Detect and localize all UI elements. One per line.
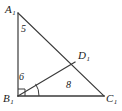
- vertex-label-a1: A1: [5, 4, 16, 19]
- vertex-subscript-b: 1: [10, 98, 14, 106]
- vertex-subscript-c: 1: [114, 98, 118, 106]
- segment-a1-c1: [18, 13, 104, 96]
- length-label-b1d1: 6: [19, 72, 24, 82]
- vertex-subscript-a: 1: [12, 9, 16, 17]
- vertex-letter-b: B: [3, 92, 10, 104]
- vertex-subscript-d: 1: [86, 55, 90, 63]
- length-label-a1b1: 5: [21, 24, 26, 34]
- length-label-base-8: 8: [66, 80, 71, 90]
- vertex-letter-c: C: [106, 92, 113, 104]
- vertex-label-d1: D1: [78, 50, 90, 65]
- angle-arc-marker-b1: [36, 84, 39, 96]
- vertex-letter-d: D: [78, 49, 86, 61]
- vertex-label-c1: C1: [106, 93, 117, 108]
- vertex-letter-a: A: [5, 3, 12, 15]
- geometry-figure: A1 B1 C1 D1 5 6 8: [0, 0, 122, 111]
- geometry-canvas: [0, 0, 122, 111]
- vertex-label-b1: B1: [3, 93, 14, 108]
